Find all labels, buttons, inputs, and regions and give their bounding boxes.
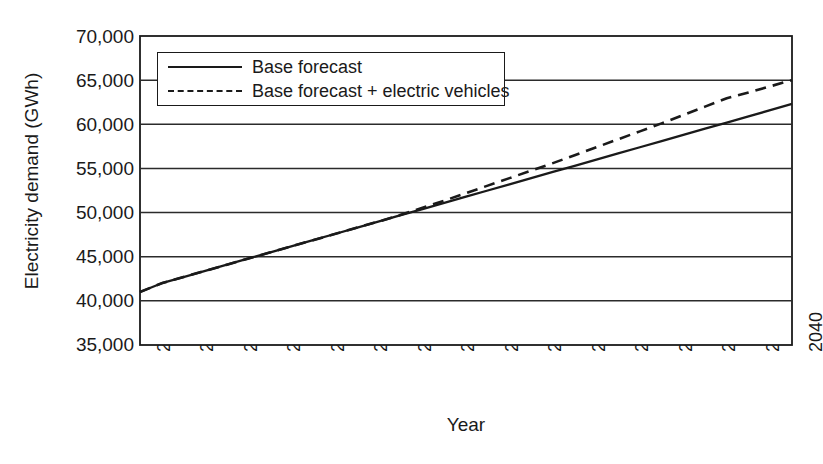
legend-dashed-line-icon [168, 85, 242, 97]
legend-item-base-forecast-plus-ev: Base forecast + electric vehicles [168, 79, 510, 103]
legend-item-base-forecast: Base forecast [168, 55, 362, 79]
legend-label: Base forecast [252, 57, 362, 78]
legend: Base forecast Base forecast + electric v… [157, 52, 505, 106]
line-chart: Electricity demand (GWh) 70,000 65,000 6… [0, 0, 823, 464]
legend-label: Base forecast + electric vehicles [252, 81, 510, 102]
legend-solid-line-icon [168, 61, 242, 73]
